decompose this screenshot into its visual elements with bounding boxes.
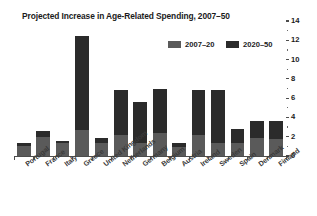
x-axis-tick: [228, 157, 229, 160]
x-axis-tick: [14, 157, 15, 160]
x-axis-tick: [111, 157, 112, 160]
x-axis-tick: [150, 157, 151, 160]
x-axis-tick: [169, 157, 170, 160]
x-axis-tick: [267, 157, 268, 160]
x-axis-tick: [33, 157, 34, 160]
x-axis-tick: [286, 157, 287, 160]
x-axis-tick: [247, 157, 248, 160]
x-axis-labels: PortugalFranceItalyGreeceUnited KingdomN…: [0, 0, 317, 216]
x-axis-label: Italy: [63, 154, 79, 169]
x-axis-tick: [131, 157, 132, 160]
x-axis-tick: [208, 157, 209, 160]
x-axis-tick: [53, 157, 54, 160]
x-axis-label: Greece: [82, 148, 105, 169]
age-related-spending-chart: Projected Increase in Age-Related Spendi…: [0, 0, 317, 216]
x-axis-tick: [72, 157, 73, 160]
x-axis-tick: [189, 157, 190, 160]
x-axis-tick: [92, 157, 93, 160]
